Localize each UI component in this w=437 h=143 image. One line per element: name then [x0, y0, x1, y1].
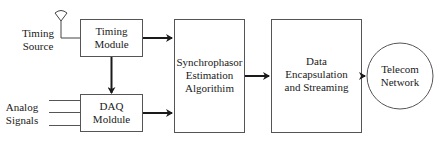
- svg-text:Algorithim: Algorithim: [185, 82, 234, 94]
- svg-text:Signals: Signals: [6, 114, 38, 126]
- svg-text:Moldule: Moldule: [93, 113, 130, 125]
- svg-text:DAQ: DAQ: [100, 100, 124, 112]
- daq-module-block: DAQ Moldule: [81, 95, 143, 132]
- svg-text:Network: Network: [381, 76, 420, 88]
- timing-source-label: Timing Source: [22, 27, 55, 52]
- svg-text:Source: Source: [23, 40, 54, 52]
- block-diagram: Timing Source Timing Module Analog Signa…: [0, 0, 437, 143]
- svg-text:Telecom: Telecom: [381, 63, 419, 75]
- analog-signals-label: Analog Signals: [6, 101, 39, 126]
- svg-text:Analog: Analog: [6, 101, 39, 113]
- svg-text:Estimation: Estimation: [186, 69, 234, 81]
- svg-text:Encapsulation: Encapsulation: [285, 68, 348, 80]
- telecom-network-node: Telecom Network: [367, 43, 433, 109]
- antenna-icon: [55, 11, 80, 39]
- svg-text:and Streaming: and Streaming: [285, 81, 349, 93]
- analog-input-lines: [49, 101, 80, 126]
- synchrophasor-estimation-block: Synchrophasor Estimation Algorithim: [175, 20, 245, 133]
- svg-text:Module: Module: [94, 38, 128, 50]
- svg-text:Synchrophasor: Synchrophasor: [177, 56, 243, 68]
- svg-text:Timing: Timing: [22, 27, 55, 39]
- data-encapsulation-block: Data Encapsulation and Streaming: [272, 20, 362, 133]
- svg-text:Data: Data: [306, 55, 327, 67]
- timing-module-block: Timing Module: [81, 20, 143, 57]
- svg-text:Timing: Timing: [95, 25, 128, 37]
